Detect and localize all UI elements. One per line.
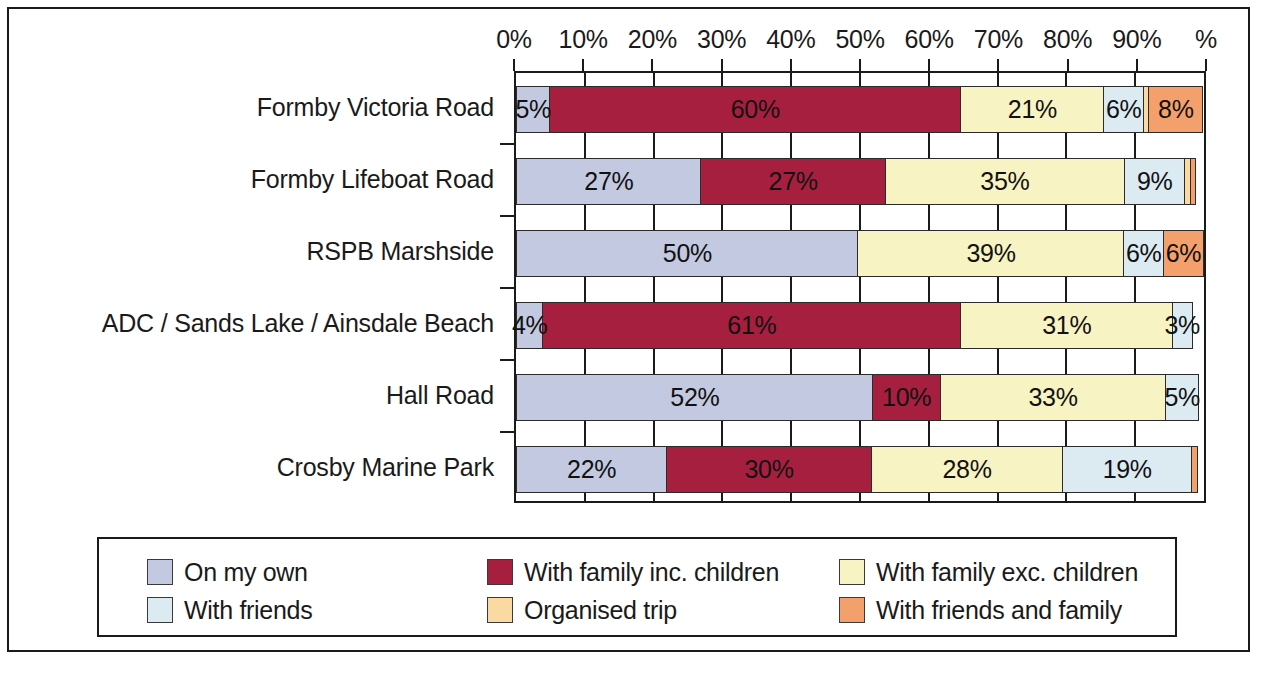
x-axis-tick-labels: 0%10%20%30%40%50%60%70%80%90%% [514, 25, 1206, 59]
stacked-bar-rows: 5%60%21%6%8%27%27%35%9%50%39%6%6%4%61%31… [516, 73, 1204, 501]
x-axis-tick-mark [651, 59, 653, 71]
bar-segment: 50% [516, 230, 859, 277]
x-axis-tick-mark [1136, 59, 1138, 71]
bar-segment-label: 19% [1103, 457, 1152, 482]
bar-segment-label: 39% [966, 241, 1015, 266]
x-axis-tick-label: 60% [905, 25, 954, 54]
bar-segment-label: 6% [1106, 97, 1142, 122]
legend-item[interactable]: With friends and family [839, 596, 1175, 625]
bar-segment [1190, 158, 1197, 205]
legend-item[interactable]: With friends [147, 596, 487, 625]
y-axis-category-label: Formby Victoria Road [257, 71, 494, 143]
y-axis-category-label: Crosby Marine Park [277, 431, 494, 503]
bar-segment: 52% [516, 374, 874, 421]
x-axis-tick-mark [997, 59, 999, 71]
legend-item[interactable]: With family inc. children [487, 558, 839, 587]
bar-segment-label: 4% [512, 313, 548, 338]
bar-segment: 60% [549, 86, 962, 133]
x-axis-tick-mark [859, 59, 861, 71]
y-axis-category-label: RSPB Marshside [306, 215, 494, 287]
bar-segment-label: 5% [515, 97, 551, 122]
y-axis-ticks [500, 71, 514, 503]
bar-segment-label: 6% [1126, 241, 1162, 266]
y-axis-category-label: ADC / Sands Lake / Ainsdale Beach [102, 287, 494, 359]
legend-label: With family inc. children [524, 558, 779, 587]
x-axis-tick-label: 80% [1043, 25, 1092, 54]
stacked-bar: 22%30%28%19% [516, 446, 1204, 493]
x-axis-tick-mark [721, 59, 723, 71]
x-axis-tick-label: 40% [766, 25, 815, 54]
chart-legend: On my ownWith family inc. childrenWith f… [97, 537, 1177, 637]
y-axis-tick-mark [500, 143, 514, 145]
bar-segment-label: 35% [980, 169, 1029, 194]
x-axis-tick-label: 90% [1112, 25, 1161, 54]
y-axis-category-label: Hall Road [386, 359, 494, 431]
bar-segment: 28% [871, 446, 1064, 493]
chart-row: 50%39%6%6% [516, 217, 1204, 289]
legend-label: With family exc. children [876, 558, 1138, 587]
bar-segment-label: 3% [1165, 313, 1201, 338]
bar-segment: 35% [885, 158, 1126, 205]
y-axis-tick-mark [500, 359, 514, 361]
stacked-bar: 27%27%35%9% [516, 158, 1204, 205]
stacked-bar: 5%60%21%6%8% [516, 86, 1204, 133]
legend-label: Organised trip [524, 596, 677, 625]
bar-segment-label: 61% [727, 313, 776, 338]
bar-segment-label: 22% [567, 457, 616, 482]
y-axis-tick-mark [500, 215, 514, 217]
chart-row: 22%30%28%19% [516, 433, 1204, 505]
x-axis-tick-mark [928, 59, 930, 71]
stacked-bar: 52%10%33%5% [516, 374, 1204, 421]
legend-item[interactable]: With family exc. children [839, 558, 1175, 587]
bar-segment: 27% [700, 158, 886, 205]
x-axis-tick-label: 10% [559, 25, 608, 54]
bar-segment-label: 10% [882, 385, 931, 410]
legend-swatch [147, 597, 173, 623]
bar-segment-label: 27% [769, 169, 818, 194]
bar-segment: 30% [666, 446, 872, 493]
bar-segment: 6% [1123, 230, 1164, 277]
bar-segment-label: 8% [1158, 97, 1194, 122]
x-axis-tick-label: 20% [628, 25, 677, 54]
x-axis-tick-mark [582, 59, 584, 71]
bar-segment: 27% [516, 158, 702, 205]
legend-item[interactable]: Organised trip [487, 596, 839, 625]
bar-segment: 6% [1163, 230, 1204, 277]
bar-segment-label: 30% [744, 457, 793, 482]
bar-segment-label: 27% [584, 169, 633, 194]
bar-segment-label: 31% [1042, 313, 1091, 338]
legend-swatch [487, 559, 513, 585]
legend-grid: On my ownWith family inc. childrenWith f… [147, 553, 1175, 629]
legend-label: On my own [184, 558, 308, 587]
legend-swatch [487, 597, 513, 623]
chart-row: 27%27%35%9% [516, 145, 1204, 217]
x-axis-tick-mark [790, 59, 792, 71]
stacked-bar: 50%39%6%6% [516, 230, 1204, 277]
bar-segment-label: 60% [731, 97, 780, 122]
bar-segment-label: 50% [663, 241, 712, 266]
bar-segment: 5% [1165, 374, 1199, 421]
bar-segment-label: 9% [1137, 169, 1173, 194]
bar-segment: 10% [872, 374, 941, 421]
chart-row: 4%61%31%3% [516, 289, 1204, 361]
bar-segment [1191, 446, 1198, 493]
bar-segment: 31% [960, 302, 1173, 349]
x-axis-tick-label: 70% [974, 25, 1023, 54]
chart-row: 5%60%21%6%8% [516, 73, 1204, 145]
bar-segment-label: 21% [1008, 97, 1057, 122]
bar-segment: 33% [940, 374, 1167, 421]
bar-segment: 6% [1103, 86, 1144, 133]
bar-segment: 3% [1172, 302, 1193, 349]
chart-row: 52%10%33%5% [516, 361, 1204, 433]
bar-segment-label: 6% [1166, 241, 1202, 266]
legend-item[interactable]: On my own [147, 558, 487, 587]
figure-frame: 0%10%20%30%40%50%60%70%80%90%% Formby Vi… [7, 7, 1250, 652]
x-axis-tick-label: 0% [496, 25, 532, 54]
legend-swatch [839, 559, 865, 585]
y-axis-category-label: Formby Lifeboat Road [251, 143, 494, 215]
x-axis-tick-label: 50% [835, 25, 884, 54]
bar-segment: 9% [1124, 158, 1186, 205]
bar-segment: 39% [857, 230, 1124, 277]
y-axis-tick-mark [500, 431, 514, 433]
bar-segment: 21% [960, 86, 1104, 133]
